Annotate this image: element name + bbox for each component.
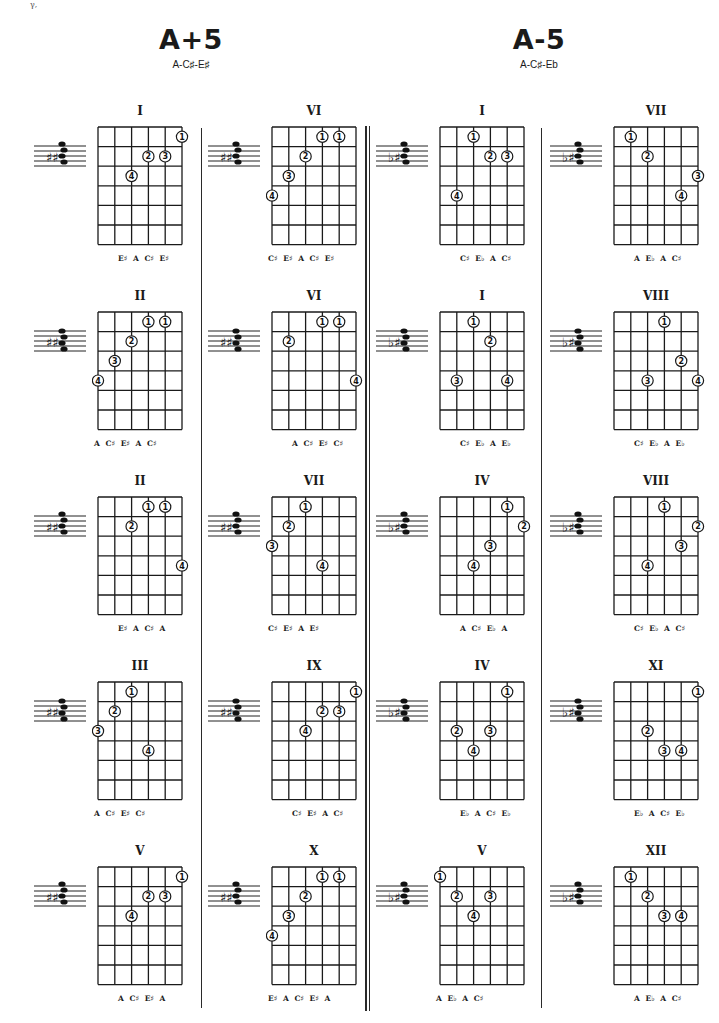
svg-text:♭♯: ♭♯ xyxy=(388,150,400,165)
fretboard-grid: 1234 xyxy=(434,676,532,808)
staff-notation-icon: ♭♯ xyxy=(548,132,604,182)
svg-text:4: 4 xyxy=(678,747,684,756)
staff-notation-icon: ♯♯ xyxy=(32,132,88,182)
finger-dot: 4 xyxy=(468,910,479,921)
position-label: V xyxy=(95,844,185,858)
svg-text:3: 3 xyxy=(662,912,668,921)
finger-dot: 1 xyxy=(625,871,636,882)
chord-diagram: X♯♯11234E♯ A C♯ E♯ A xyxy=(196,844,366,1023)
position-label: I xyxy=(437,289,527,303)
svg-text:3: 3 xyxy=(488,542,494,551)
svg-text:2: 2 xyxy=(146,892,152,901)
svg-text:1: 1 xyxy=(320,318,326,327)
position-label: VI xyxy=(269,104,359,118)
finger-dot: 2 xyxy=(642,151,653,162)
svg-text:2: 2 xyxy=(286,522,292,531)
string-notes-label: E♯ A C♯ A xyxy=(118,624,165,633)
svg-text:2: 2 xyxy=(303,892,309,901)
chord-diagram: II♯♯1124E♯ A C♯ A xyxy=(22,474,192,654)
svg-text:♯♯: ♯♯ xyxy=(46,890,59,905)
svg-text:♯♯: ♯♯ xyxy=(46,705,59,720)
finger-dot: 3 xyxy=(92,725,103,736)
finger-dot: 1 xyxy=(334,871,345,882)
position-label: VII xyxy=(269,474,359,488)
svg-text:4: 4 xyxy=(129,172,135,181)
chord-diagram: V♯♯1234A C♯ E♯ A xyxy=(22,844,192,1023)
finger-dot: 1 xyxy=(502,501,513,512)
position-label: I xyxy=(437,104,527,118)
finger-dot: 3 xyxy=(502,151,513,162)
svg-text:3: 3 xyxy=(286,172,292,181)
svg-text:1: 1 xyxy=(179,133,185,142)
finger-dot: 2 xyxy=(300,151,311,162)
finger-dot: 4 xyxy=(692,375,703,386)
string-notes-label: C♯ E♯ A C♯ xyxy=(292,809,343,818)
chord-diagram: VIII♭♯1234C♯ E♭ A C♯ xyxy=(538,474,708,654)
string-notes-label: A C♯ E♯ A xyxy=(118,994,165,1003)
position-label: V xyxy=(437,844,527,858)
staff-notation-icon: ♭♯ xyxy=(374,317,430,367)
svg-text:1: 1 xyxy=(437,873,443,882)
position-label: II xyxy=(95,289,185,303)
corner-mark: γ, xyxy=(30,0,37,9)
svg-text:2: 2 xyxy=(454,892,460,901)
finger-dot: 1 xyxy=(317,316,328,327)
svg-text:♭♯: ♭♯ xyxy=(388,520,400,535)
staff-notation-icon: ♭♯ xyxy=(548,502,604,552)
svg-text:1: 1 xyxy=(179,873,185,882)
position-label: VIII xyxy=(611,474,701,488)
svg-text:1: 1 xyxy=(628,873,634,882)
svg-text:♭♯: ♭♯ xyxy=(562,520,574,535)
staff-notation-icon: ♭♯ xyxy=(548,872,604,922)
fretboard-grid: 1234 xyxy=(92,676,190,808)
svg-text:1: 1 xyxy=(303,503,309,512)
svg-text:1: 1 xyxy=(320,873,326,882)
finger-dot: 3 xyxy=(266,540,277,551)
finger-dot: 2 xyxy=(642,725,653,736)
string-notes-label: A C♯ E♯ C♯ xyxy=(292,439,343,448)
svg-text:2: 2 xyxy=(303,152,309,161)
svg-text:1: 1 xyxy=(504,688,510,697)
string-notes-label: E♭ A C♯ E♭ xyxy=(460,809,511,818)
svg-text:♭♯: ♭♯ xyxy=(562,705,574,720)
svg-text:1: 1 xyxy=(471,133,477,142)
finger-dot: 3 xyxy=(451,375,462,386)
finger-dot: 3 xyxy=(109,355,120,366)
finger-dot: 1 xyxy=(468,316,479,327)
fretboard-grid: 11234 xyxy=(92,306,190,438)
finger-dot: 4 xyxy=(317,560,328,571)
finger-dot: 2 xyxy=(642,891,653,902)
position-label: VI xyxy=(269,289,359,303)
string-notes-label: C♯ E♯ A C♯ E♯ xyxy=(268,254,334,263)
svg-text:♭♯: ♭♯ xyxy=(562,890,574,905)
svg-text:1: 1 xyxy=(146,318,152,327)
svg-text:1: 1 xyxy=(146,503,152,512)
svg-text:3: 3 xyxy=(336,707,342,716)
position-label: IV xyxy=(437,659,527,673)
svg-text:4: 4 xyxy=(129,912,135,921)
svg-text:2: 2 xyxy=(320,707,326,716)
finger-dot: 1 xyxy=(317,131,328,142)
svg-text:4: 4 xyxy=(95,377,101,386)
staff-notation-icon: ♯♯ xyxy=(206,132,262,182)
finger-dot: 1 xyxy=(143,501,154,512)
finger-dot: 1 xyxy=(126,686,137,697)
finger-dot: 2 xyxy=(300,891,311,902)
finger-dot: 3 xyxy=(485,725,496,736)
staff-notation-icon: ♯♯ xyxy=(206,687,262,737)
finger-dot: 4 xyxy=(266,930,277,941)
string-notes-label: C♯ E♭ A E♭ xyxy=(460,439,511,448)
finger-dot: 2 xyxy=(692,521,703,532)
finger-dot: 2 xyxy=(283,336,294,347)
finger-dot: 2 xyxy=(283,521,294,532)
svg-text:4: 4 xyxy=(471,747,477,756)
svg-text:2: 2 xyxy=(645,152,651,161)
finger-dot: 4 xyxy=(350,375,361,386)
svg-text:2: 2 xyxy=(146,152,152,161)
chord-diagram: I♭♯1234C♯ E♭ A C♯ xyxy=(364,104,534,284)
fretboard-grid: 1234 xyxy=(608,491,706,623)
svg-text:4: 4 xyxy=(146,747,152,756)
finger-dot: 2 xyxy=(518,521,529,532)
chord-title: A-5 xyxy=(439,24,639,55)
svg-text:2: 2 xyxy=(129,522,135,531)
